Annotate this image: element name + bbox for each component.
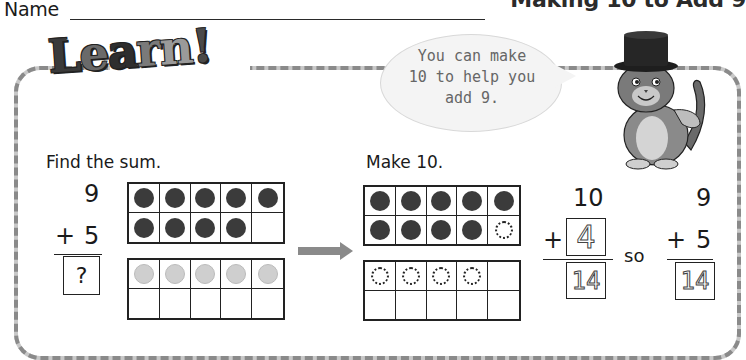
ten-frame-cell — [129, 184, 160, 213]
make-ten-instruction: Make 10. — [366, 152, 443, 172]
dark-counter-icon — [134, 218, 154, 238]
answer-placeholder: ? — [76, 263, 88, 288]
dark-counter-icon — [401, 191, 421, 211]
page-title: Making 10 to Add 9 — [510, 0, 746, 12]
dashed-counter-icon — [495, 221, 513, 239]
dark-counter-icon — [258, 188, 278, 208]
ten-frame-cell — [191, 213, 222, 242]
ten-frame-cell — [252, 260, 283, 289]
dark-counter-icon — [431, 220, 451, 240]
speech-bubble-tail — [550, 62, 576, 90]
ten-frame-cell — [221, 184, 252, 213]
cat-with-top-hat-icon — [596, 30, 716, 170]
answer-box[interactable]: ? — [63, 256, 100, 295]
find-sum-instruction: Find the sum. — [46, 152, 161, 172]
dark-counter-icon — [195, 218, 215, 238]
ten-frame-cell — [252, 213, 283, 242]
ten-frame-cell — [365, 216, 396, 245]
ten-frame-cell — [252, 184, 283, 213]
ten-frame-cell — [221, 213, 252, 242]
banner-letter: ! — [190, 18, 213, 73]
eq2-addend: 5 — [696, 226, 711, 254]
traced-digit: 4 — [576, 221, 595, 253]
ten-frame-cell — [191, 260, 222, 289]
dark-counter-icon — [494, 191, 514, 211]
ten-frame-remaining — [363, 260, 521, 321]
bubble-line: add 9. — [392, 88, 552, 109]
ten-frame-cell — [488, 291, 519, 320]
ten-frame-five — [127, 258, 285, 320]
plus-sign: + — [55, 222, 75, 250]
eq1-sum-line — [543, 259, 613, 260]
ten-frame-made-ten — [363, 185, 521, 246]
speech-bubble-text: You can make 10 to help you add 9. — [392, 46, 552, 109]
banner-letter: L — [46, 28, 81, 84]
eq1-top: 10 — [573, 184, 604, 212]
eq2-plus: + — [666, 226, 686, 254]
arrow-right-icon — [298, 247, 342, 255]
bubble-line: 10 to help you — [392, 67, 552, 88]
light-counter-icon — [134, 264, 154, 284]
traced-number: 14 — [572, 269, 601, 293]
ten-frame-cell — [457, 187, 488, 216]
banner-letter: n — [158, 20, 194, 76]
ten-frame-cell — [252, 289, 283, 318]
dark-counter-icon — [226, 218, 246, 238]
dashed-counter-icon — [432, 267, 450, 285]
dark-counter-icon — [462, 191, 482, 211]
arrow-right-icon-head — [340, 242, 353, 260]
ten-frame-cell — [221, 289, 252, 318]
light-counter-icon — [258, 264, 278, 284]
ten-frame-cell — [427, 187, 458, 216]
light-counter-icon — [226, 264, 246, 284]
ten-frame-cell — [191, 184, 222, 213]
dark-counter-icon — [195, 188, 215, 208]
ten-frame-cell — [160, 260, 191, 289]
light-counter-icon — [195, 264, 215, 284]
learn-banner: Learn! — [46, 18, 213, 83]
banner-letter: a — [106, 24, 139, 80]
ten-frame-cell — [160, 184, 191, 213]
ten-frame-cell — [396, 291, 427, 320]
ten-frame-cell — [221, 260, 252, 289]
dashed-counter-icon — [402, 267, 420, 285]
light-counter-icon — [165, 264, 185, 284]
ten-frame-cell — [191, 289, 222, 318]
ten-frame-cell — [396, 262, 427, 291]
name-input-line[interactable] — [70, 19, 485, 20]
dark-counter-icon — [165, 218, 185, 238]
ten-frame-cell — [396, 216, 427, 245]
traced-number: 14 — [681, 269, 710, 293]
dark-counter-icon — [401, 220, 421, 240]
ten-frame-cell — [160, 289, 191, 318]
ten-frame-cell — [396, 187, 427, 216]
ten-frame-cell — [488, 216, 519, 245]
eq1-sum-box[interactable]: 14 — [566, 262, 606, 299]
ten-frame-cell — [129, 289, 160, 318]
sum-line — [54, 254, 102, 255]
addend-top: 9 — [84, 180, 99, 208]
dark-counter-icon — [370, 220, 390, 240]
dark-counter-icon — [134, 188, 154, 208]
name-label: Name — [4, 0, 59, 20]
so-connector: so — [624, 245, 644, 266]
ten-frame-cell — [129, 213, 160, 242]
ten-frame-cell — [365, 291, 396, 320]
addend-bottom: 5 — [84, 222, 99, 250]
ten-frame-cell — [129, 260, 160, 289]
eq2-sum-line — [667, 259, 713, 260]
dark-counter-icon — [431, 191, 451, 211]
eq2-sum-box[interactable]: 14 — [675, 262, 715, 300]
eq2-top: 9 — [696, 184, 711, 212]
ten-frame-cell — [488, 187, 519, 216]
bubble-line: You can make — [392, 46, 552, 67]
ten-frame-cell — [427, 216, 458, 245]
ten-frame-cell — [365, 262, 396, 291]
dark-counter-icon — [226, 188, 246, 208]
dashed-counter-icon — [371, 267, 389, 285]
dark-counter-icon — [462, 220, 482, 240]
dashed-counter-icon — [463, 267, 481, 285]
ten-frame-cell — [457, 262, 488, 291]
eq1-addend-box[interactable]: 4 — [566, 218, 606, 256]
ten-frame-cell — [457, 291, 488, 320]
